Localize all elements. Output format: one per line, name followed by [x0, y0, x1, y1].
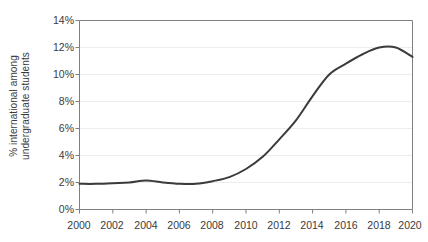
- x-tick-label-2010: 2010: [234, 219, 257, 231]
- y-tick-label-14: 14%: [53, 14, 74, 26]
- x-tick-label-2020: 2020: [398, 219, 421, 231]
- x-tick-label-2006: 2006: [167, 219, 190, 231]
- y-axis-tick-labels: 14% 12% 10% 8% 6% 4% 2% 0%: [38, 0, 74, 242]
- y-tick-label-6: 6%: [59, 122, 74, 134]
- y-axis-title: % international among undergraduate stud…: [0, 0, 40, 212]
- y-tick-label-12: 12%: [53, 41, 74, 53]
- x-tick-label-2016: 2016: [334, 219, 357, 231]
- y-axis-title-line2: undergraduate students: [20, 52, 32, 160]
- y-tick-label-0: 0%: [59, 203, 74, 215]
- x-tick-label-2000: 2000: [67, 219, 90, 231]
- data-line-series-0: [80, 46, 413, 184]
- y-tick-label-4: 4%: [59, 149, 74, 161]
- y-tick-label-8: 8%: [59, 95, 74, 107]
- y-tick-label-10: 10%: [53, 68, 74, 80]
- x-tick-label-2008: 2008: [200, 219, 223, 231]
- x-tick-label-2002: 2002: [100, 219, 123, 231]
- y-axis-title-line1: % international among: [8, 52, 20, 160]
- x-tick-label-2012: 2012: [267, 219, 290, 231]
- x-tick-label-2004: 2004: [134, 219, 157, 231]
- x-tick-label-2014: 2014: [300, 219, 323, 231]
- y-tick-label-2: 2%: [59, 176, 74, 188]
- line-chart: % international among undergraduate stud…: [0, 0, 428, 242]
- x-tick-label-2018: 2018: [367, 219, 390, 231]
